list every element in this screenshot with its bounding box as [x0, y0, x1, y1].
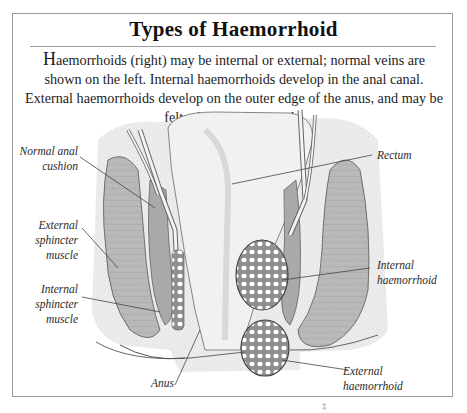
label-external-sphincter-muscle: External sphincter muscle: [14, 218, 78, 263]
label-line: muscle: [14, 312, 78, 327]
left-vein-plexus: [172, 250, 184, 330]
label-line: Internal: [14, 282, 78, 297]
label-line: sphincter: [14, 297, 78, 312]
label-line: Normal anal: [14, 144, 78, 159]
label-normal-anal-cushion: Normal anal cushion: [14, 144, 78, 174]
internal-haemorrhoid-shape: [236, 240, 288, 310]
label-anus: Anus: [130, 376, 174, 391]
label-line: muscle: [14, 248, 78, 263]
label-line: External: [14, 218, 78, 233]
label-line: sphincter: [14, 233, 78, 248]
footer-mark: ‡: [322, 401, 327, 411]
label-internal-haemorrhoid: Internal haemorrhoid: [377, 258, 437, 288]
label-line: haemorrhoid: [343, 379, 403, 394]
external-haemorrhoid-shape: [241, 320, 289, 376]
label-line: Internal: [377, 258, 437, 273]
label-line: External: [343, 364, 403, 379]
label-external-haemorrhoid: External haemorrhoid: [343, 364, 403, 394]
anatomical-illustration: [0, 0, 467, 413]
label-internal-sphincter-muscle: Internal sphincter muscle: [14, 282, 78, 327]
label-line: cushion: [14, 159, 78, 174]
label-rectum: Rectum: [377, 148, 411, 163]
label-line: haemorrhoid: [377, 273, 437, 288]
